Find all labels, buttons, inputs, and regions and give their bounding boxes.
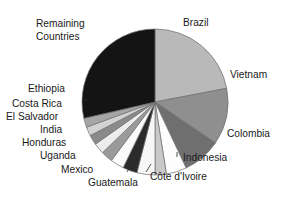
slice-label-india: India [40, 124, 62, 135]
slice-label-costa-rica: Costa Rica [12, 98, 62, 109]
slice-label-colombia: Colombia [227, 128, 270, 139]
slice-label-ethiopia: Ethiopia [28, 83, 65, 94]
slice-label-mexico: Mexico [61, 164, 94, 175]
slice-label-remaining-countries-line2: Countries [36, 31, 80, 42]
slice-label-uganda: Uganda [40, 150, 76, 161]
slice-label-vietnam: Vietnam [230, 69, 267, 80]
slice-label-guatemala: Guatemala [88, 177, 138, 188]
pie-chart-figure: Brazil Vietnam Colombia Indonesia Côte d… [0, 0, 282, 213]
slice-label-brazil: Brazil [183, 17, 208, 28]
slice-label-honduras: Honduras [22, 137, 66, 148]
slice-label-remaining-countries-line1: Remaining [36, 18, 85, 29]
pie-chart-svg: Brazil Vietnam Colombia Indonesia Côte d… [0, 0, 282, 213]
slice-label-el-salvador: El Salvador [6, 111, 59, 122]
slice-label-cote-divoire: Côte d'Ivoire [150, 171, 207, 182]
slice-label-indonesia: Indonesia [183, 152, 228, 163]
